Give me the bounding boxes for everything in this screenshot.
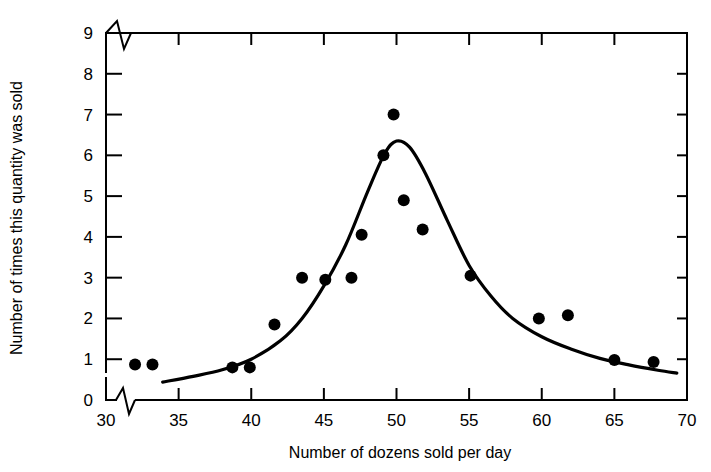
data-point-7 [345, 272, 357, 284]
y-tick-label-4: 4 [84, 228, 93, 247]
x-tick-label-55: 55 [460, 411, 479, 430]
y-tick-label-8: 8 [84, 65, 93, 84]
data-point-14 [533, 312, 545, 324]
y-tick-label-2: 2 [84, 309, 93, 328]
data-point-2 [226, 361, 238, 373]
data-point-0 [129, 359, 141, 371]
y-axis-tick-labels: 0123456789 [84, 24, 93, 410]
y-axis-break-icon [106, 21, 131, 49]
x-tick-label-30: 30 [97, 411, 116, 430]
data-point-8 [356, 229, 368, 241]
data-point-15 [562, 309, 574, 321]
y-tick-label-7: 7 [84, 106, 93, 125]
axis-top-left-spine [106, 33, 687, 372]
y-tick-label-9: 9 [84, 24, 93, 43]
data-point-6 [319, 274, 331, 286]
scatter-plot: 303540455055606570 0123456789 Number of … [0, 0, 711, 472]
y-tick-label-6: 6 [84, 146, 93, 165]
x-tick-label-50: 50 [387, 411, 406, 430]
y-tick-label-1: 1 [84, 350, 93, 369]
data-points-group [129, 109, 660, 374]
data-point-13 [465, 270, 477, 282]
x-tick-label-60: 60 [532, 411, 551, 430]
y-tick-label-5: 5 [84, 187, 93, 206]
data-point-9 [377, 149, 389, 161]
fitted-curve [163, 141, 677, 382]
data-point-11 [398, 194, 410, 206]
fitted-curve-group [163, 141, 677, 382]
y-tick-label-0: 0 [84, 391, 93, 410]
x-tick-label-40: 40 [242, 411, 261, 430]
data-point-17 [648, 356, 660, 368]
y-axis-title: Number of times this quantity was sold [8, 81, 25, 355]
data-point-10 [388, 109, 400, 121]
x-tick-label-65: 65 [605, 411, 624, 430]
x-axis-tick-labels: 303540455055606570 [97, 411, 697, 430]
data-point-4 [268, 319, 280, 331]
axes-group [106, 21, 687, 414]
chart-figure: 303540455055606570 0123456789 Number of … [0, 0, 711, 472]
data-point-3 [244, 361, 256, 373]
tick-marks-group [106, 33, 687, 400]
x-tick-label-45: 45 [314, 411, 333, 430]
data-point-12 [417, 224, 429, 236]
data-point-1 [146, 359, 158, 371]
y-tick-label-3: 3 [84, 269, 93, 288]
x-axis-break-icon [116, 388, 135, 414]
x-axis-title: Number of dozens sold per day [289, 444, 511, 461]
x-tick-label-35: 35 [169, 411, 188, 430]
data-point-5 [296, 272, 308, 284]
x-tick-label-70: 70 [678, 411, 697, 430]
data-point-16 [608, 354, 620, 366]
